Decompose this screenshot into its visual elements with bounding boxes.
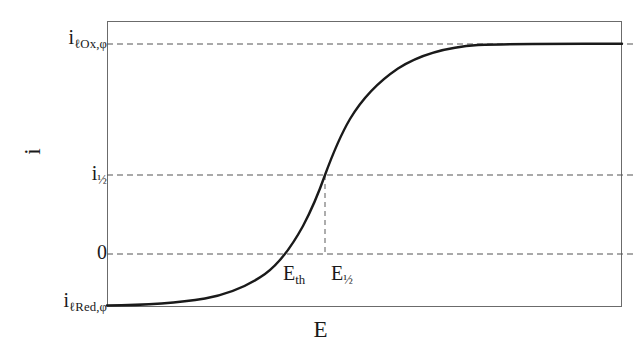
annotation-e-threshold-base: E bbox=[283, 262, 295, 284]
plot-frame bbox=[107, 21, 622, 307]
y-tick-sub-i-limit-red: ℓRed,φ bbox=[69, 300, 107, 314]
y-tick-base-zero: 0 bbox=[97, 241, 107, 263]
annotation-e-half: E½ bbox=[331, 263, 353, 287]
polarization-curve-figure: iℓOx,φ i½ 0 iℓRed,φ i E Eth E½ bbox=[0, 0, 641, 358]
y-tick-sub-i-half: ½ bbox=[97, 173, 107, 187]
annotation-e-threshold: Eth bbox=[283, 263, 305, 287]
annotation-e-half-sub: ½ bbox=[343, 273, 353, 287]
y-tick-label-zero: 0 bbox=[97, 242, 107, 262]
y-tick-label-i-limit-red: iℓRed,φ bbox=[64, 290, 108, 314]
x-axis-title: E bbox=[0, 318, 641, 341]
annotation-e-half-base: E bbox=[331, 262, 343, 284]
y-tick-label-i-half: i½ bbox=[92, 163, 107, 187]
y-axis-title: i bbox=[21, 134, 44, 170]
y-tick-sub-i-limit-ox: ℓOx,φ bbox=[74, 37, 107, 51]
annotation-e-threshold-sub: th bbox=[295, 273, 305, 287]
y-tick-label-i-limit-ox: iℓOx,φ bbox=[69, 27, 107, 51]
